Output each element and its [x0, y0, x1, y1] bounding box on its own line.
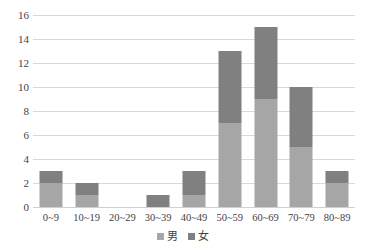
x-axis-tick-label: 30~39 — [140, 209, 176, 227]
bar-stack[interactable] — [290, 87, 313, 207]
bar-group[interactable] — [212, 15, 248, 207]
y-axis-tick-label: 4 — [3, 154, 29, 165]
bar-segment[interactable] — [326, 171, 349, 183]
y-axis-tick-label: 0 — [3, 202, 29, 213]
bar-segment[interactable] — [75, 195, 98, 207]
bar-group[interactable] — [69, 15, 105, 207]
bar-segment[interactable] — [254, 99, 277, 207]
bar-group[interactable] — [33, 15, 69, 207]
bar-segment[interactable] — [218, 51, 241, 123]
bar-stack[interactable] — [75, 183, 98, 207]
bar-segment[interactable] — [39, 171, 62, 183]
bar-group[interactable] — [319, 15, 355, 207]
bar-stack[interactable] — [254, 27, 277, 207]
legend-label: 女 — [198, 231, 209, 242]
bar-segment[interactable] — [75, 183, 98, 195]
y-axis-tick-label: 6 — [3, 130, 29, 141]
x-axis-tick-label: 60~69 — [248, 209, 284, 227]
bar-group[interactable] — [105, 15, 141, 207]
bar-segment[interactable] — [290, 147, 313, 207]
bar-segment[interactable] — [290, 87, 313, 147]
bar-group[interactable] — [248, 15, 284, 207]
y-axis: 1614121086420 — [0, 15, 29, 207]
bar-segment[interactable] — [218, 123, 241, 207]
legend-label: 男 — [167, 231, 178, 242]
bar-group[interactable] — [140, 15, 176, 207]
y-axis-tick-label: 2 — [3, 178, 29, 189]
bar-stack[interactable] — [147, 195, 170, 207]
x-axis-tick-label: 80~89 — [319, 209, 355, 227]
y-axis-tick-label: 14 — [3, 34, 29, 45]
bar-segment[interactable] — [254, 27, 277, 99]
bars-layer — [33, 15, 355, 207]
y-axis-tick-label: 10 — [3, 82, 29, 93]
axis-baseline — [33, 207, 355, 208]
legend-entry[interactable]: 女 — [188, 231, 209, 242]
legend-entry[interactable]: 男 — [157, 231, 178, 242]
bar-segment[interactable] — [39, 183, 62, 207]
x-axis: 0~910~1920~2930~3940~4950~5960~6970~7980… — [33, 209, 355, 227]
bar-segment[interactable] — [182, 195, 205, 207]
bar-group[interactable] — [283, 15, 319, 207]
bar-segment[interactable] — [182, 171, 205, 195]
x-axis-tick-label: 0~9 — [33, 209, 69, 227]
x-axis-tick-label: 50~59 — [212, 209, 248, 227]
legend-swatch-icon — [157, 233, 164, 240]
bar-segment[interactable] — [147, 195, 170, 207]
y-axis-tick-label: 12 — [3, 58, 29, 69]
bar-stack[interactable] — [39, 171, 62, 207]
x-axis-tick-label: 10~19 — [69, 209, 105, 227]
bar-segment[interactable] — [326, 183, 349, 207]
x-axis-tick-label: 40~49 — [176, 209, 212, 227]
x-axis-tick-label: 70~79 — [283, 209, 319, 227]
bar-stack[interactable] — [182, 171, 205, 207]
y-axis-tick-label: 16 — [3, 10, 29, 21]
y-axis-tick-label: 8 — [3, 106, 29, 117]
bar-group[interactable] — [176, 15, 212, 207]
chart-legend: 男女 — [0, 228, 365, 244]
stacked-bar-chart: 1614121086420 0~910~1920~2930~3940~4950~… — [0, 0, 365, 248]
bar-stack[interactable] — [326, 171, 349, 207]
bar-stack[interactable] — [218, 51, 241, 207]
x-axis-tick-label: 20~29 — [105, 209, 141, 227]
legend-swatch-icon — [188, 233, 195, 240]
